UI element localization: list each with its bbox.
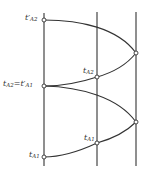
lower-arc-top (44, 86, 136, 122)
upper-arc-left-link (44, 77, 97, 86)
node-t-prime-a2 (42, 18, 46, 22)
label-sub: A1 (32, 153, 39, 159)
node-lower-right-vertex (134, 120, 138, 124)
node-t-a2-mid (95, 75, 99, 79)
label-t-prime-a2: t′A2 (25, 14, 38, 23)
label-sub: A2 (30, 16, 37, 22)
label-sub2: A1 (25, 82, 32, 88)
label-t-a2-equals-t-prime-a1: tA2=t′A1 (3, 80, 33, 89)
label-sub: A2 (86, 69, 93, 75)
label-sub: A1 (87, 136, 94, 142)
label-eq: =t′ (14, 79, 26, 88)
node-t-a2-equals-t-prime-a1 (42, 84, 46, 88)
label-sub: A2 (6, 82, 13, 88)
lower-arc-bottom (97, 122, 136, 143)
label-t-a1-mid: tA1 (84, 134, 95, 143)
label-t-a1: tA1 (29, 151, 40, 160)
node-t-a1 (42, 155, 46, 159)
node-upper-right-vertex (134, 51, 138, 55)
upper-arc-bottom (97, 53, 136, 77)
node-t-a1-mid (95, 141, 99, 145)
label-t-a2-mid: tA2 (83, 67, 94, 76)
timing-diagram (0, 0, 151, 177)
lower-arc-left-link (44, 143, 97, 157)
upper-arc-top (44, 20, 136, 53)
